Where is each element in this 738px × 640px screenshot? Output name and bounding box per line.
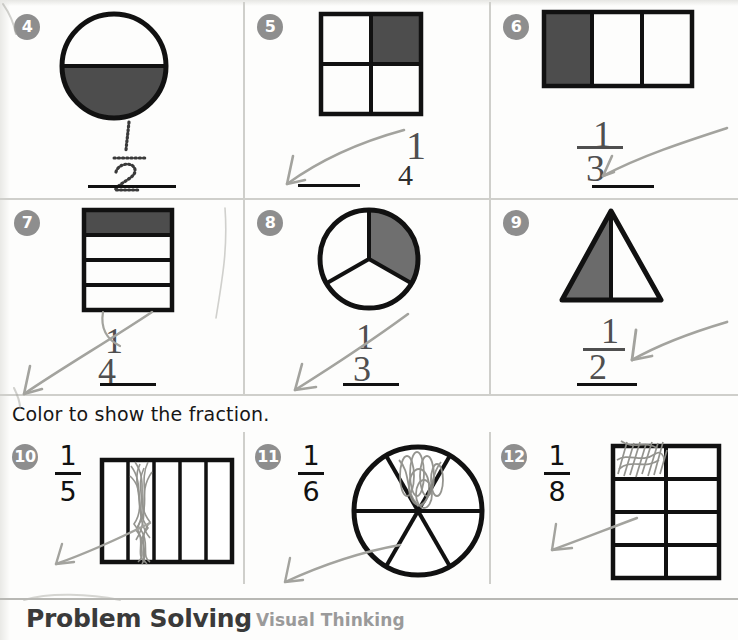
fraction-denominator-10: 5	[50, 478, 86, 505]
figure-circle-thirds-8	[316, 206, 422, 312]
answer-line-6[interactable]	[592, 185, 654, 188]
fraction-bar-12	[544, 472, 570, 475]
figure-triangle-halves-9	[555, 206, 667, 306]
figure-square-quarters-5	[319, 12, 423, 116]
footer-divider	[0, 598, 738, 600]
figure-grid-eighths-12[interactable]	[611, 444, 721, 580]
printed-fraction-10: 1 5	[50, 442, 86, 505]
instruction-text: Color to show the fraction.	[12, 403, 270, 425]
handwritten-fraction-9-bar	[583, 348, 625, 351]
handwritten-fraction-6-denominator: 3	[586, 146, 605, 190]
figure-bar-fifths-10[interactable]	[100, 458, 234, 564]
handwritten-fraction-7-numerator: 1	[105, 320, 123, 362]
fraction-numerator-12: 1	[539, 442, 575, 469]
problem-number-badge-12: 12	[501, 444, 527, 470]
problem-number-badge-9: 9	[503, 210, 529, 236]
problem-cell-8: 8 1 3	[243, 198, 489, 396]
handwritten-numerator-5: 1	[406, 122, 426, 169]
problem-number-badge-11: 11	[255, 444, 281, 470]
figure-circle-halves-4	[56, 8, 172, 124]
footer-title: Problem Solving	[26, 604, 252, 633]
problem-number-badge-10: 10	[12, 444, 38, 470]
fraction-denominator-11: 6	[293, 478, 329, 505]
figure-bar-thirds-6	[542, 10, 694, 90]
footer-subtitle: Visual Thinking	[256, 610, 405, 630]
problem-number-badge-5: 5	[257, 14, 283, 40]
answer-line-8[interactable]	[343, 383, 399, 386]
problem-number-badge-4: 4	[14, 14, 40, 40]
handwritten-fraction-6-numerator: 1	[593, 112, 612, 156]
answer-line-9[interactable]	[577, 383, 637, 386]
problem-number-badge-7: 7	[14, 210, 40, 236]
problem-cell-11: 11 1 6	[243, 432, 489, 590]
problem-cell-5: 5 1 4	[243, 0, 489, 198]
problem-number-badge-8: 8	[257, 210, 283, 236]
handwritten-fraction-9-denominator: 2	[589, 346, 607, 388]
problem-number-badge-6: 6	[503, 14, 529, 40]
problem-cell-9: 9 1 2	[489, 198, 738, 396]
problem-cell-12: 12 1 8	[489, 432, 738, 590]
figure-circle-sixths-11[interactable]	[349, 442, 487, 580]
problem-cell-10: 10 1 5	[0, 432, 243, 590]
page-footer: Problem Solving Visual Thinking	[0, 598, 738, 640]
fraction-bar-10	[55, 472, 81, 475]
fraction-numerator-11: 1	[293, 442, 329, 469]
problem-cell-6: 6 1 3	[489, 0, 738, 198]
answer-line-4[interactable]	[88, 185, 176, 188]
fraction-numerator-10: 1	[50, 442, 86, 469]
answer-line-7[interactable]	[100, 383, 156, 386]
printed-denominator-5: 4	[398, 158, 413, 192]
handwritten-fraction-8-numerator: 1	[356, 316, 374, 358]
answer-line-5[interactable]	[298, 184, 360, 187]
problem-cell-4: 4	[0, 0, 243, 198]
fraction-denominator-12: 8	[539, 478, 575, 505]
printed-fraction-11: 1 6	[293, 442, 329, 505]
handwritten-fraction-9-numerator: 1	[601, 310, 619, 352]
figure-bar-fourths-vertical-7	[82, 208, 176, 312]
worksheet-page: 4 5 1	[0, 0, 738, 640]
handwritten-fraction-6-bar	[577, 146, 623, 149]
printed-fraction-12: 1 8	[539, 442, 575, 505]
fraction-bar-11	[298, 472, 324, 475]
problem-cell-7: 7 1 4	[0, 198, 243, 396]
